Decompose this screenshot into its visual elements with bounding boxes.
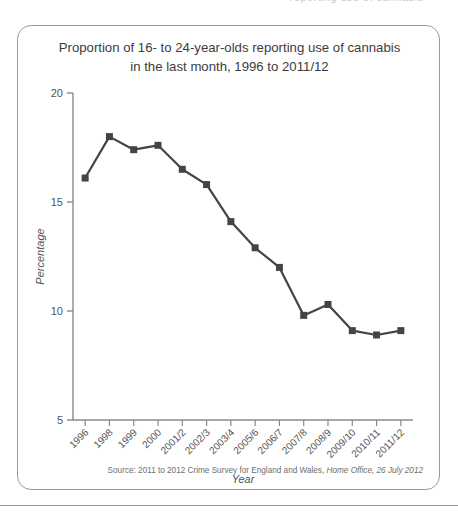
x-tick-label: 1998 [91,426,115,450]
figure-card: Proportion of 16- to 24-year-olds report… [17,25,440,490]
data-point-marker [227,218,234,225]
data-point-marker [349,327,356,334]
x-tick-label: 2007/8 [280,426,310,456]
data-point-marker [373,331,380,338]
data-point-marker [203,181,210,188]
data-point-marker [155,142,162,149]
source-note-prefix: Source: 2011 to 2012 Crime Survey for En… [108,466,325,475]
x-tick-label: 2001/2 [158,426,188,456]
line-chart-plot: 5101520 19961998199920002001/22002/32003… [18,26,441,491]
data-point-marker [130,146,137,153]
x-tick-label: 2002/3 [183,426,213,456]
x-tick-label: 2006/7 [255,426,285,456]
data-point-marker [106,133,113,140]
bottom-divider [0,505,458,506]
cut-off-text-sliver: reporting use of cannabis [0,0,458,9]
source-note: Source: 2011 to 2012 Crime Survey for En… [18,466,441,475]
x-axis: 19961998199920002001/22002/32003/42005/6… [67,420,413,460]
data-point-marker [325,301,332,308]
y-tick-label: 5 [57,414,63,426]
data-point-marker [300,312,307,319]
x-tick-label: 2003/4 [207,426,237,456]
y-tick-label: 20 [51,87,63,99]
chart-svg: 5101520 19961998199920002001/22002/32003… [18,26,441,491]
x-tick-label: 1996 [67,426,91,450]
x-tick-label: 1999 [116,426,140,450]
data-point-marker [82,175,89,182]
y-axis: 5101520 [51,87,73,426]
data-point-marker [397,327,404,334]
source-note-italic: Home Office, 26 July 2012 [327,466,423,475]
data-point-marker [252,244,259,251]
y-tick-label: 10 [51,305,63,317]
data-point-marker [179,166,186,173]
data-point-marker [276,264,283,271]
x-tick-label: 2005/6 [231,426,261,456]
data-series-cannabis-use [82,133,405,338]
y-tick-label: 15 [51,196,63,208]
y-axis-title: Percentage [34,228,46,284]
cut-off-text-fragment: reporting use of cannabis [290,0,424,3]
